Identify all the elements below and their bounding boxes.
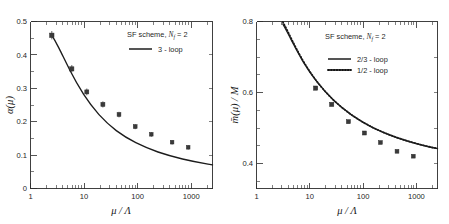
- y-tick-label: 0: [23, 184, 27, 193]
- alpha-coupling-panel: 0 0.1 0.2 0.3 0.4 0.5 1 10 100 1000 μ / …: [0, 0, 225, 224]
- legend: SF scheme, Nf = 2 3 - loop: [127, 30, 188, 54]
- x-tick-label: 1: [254, 192, 258, 201]
- y-tick-label: 0.3: [16, 84, 27, 93]
- data-point: [186, 145, 190, 150]
- data-point: [101, 101, 105, 107]
- legend-scheme-label: SF scheme, Nf = 2: [325, 32, 386, 42]
- data-point: [330, 102, 334, 106]
- y-tick-labels: 0.4 0.6 0.8: [242, 17, 253, 168]
- running-mass-panel: 0.4 0.6 0.8 1 10 100 1000 μ / Λ m̄(μ) / …: [225, 0, 449, 224]
- data-point: [85, 89, 89, 96]
- data-point: [346, 120, 350, 124]
- x-tick-label: 1: [28, 192, 32, 201]
- plot-axes: [257, 22, 438, 189]
- data-point: [117, 112, 121, 118]
- legend-entry-label: 3 - loop: [158, 45, 183, 54]
- two-three-loop-curve: [283, 24, 438, 149]
- x-tick-label: 10: [306, 192, 314, 201]
- y-tick-label: 0.5: [16, 17, 27, 26]
- alpha-plot-svg: 0 0.1 0.2 0.3 0.4 0.5 1 10 100 1000 μ / …: [0, 0, 225, 224]
- y-tick-labels: 0 0.1 0.2 0.3 0.4 0.5: [16, 17, 27, 193]
- y-tick-label: 0.8: [242, 17, 253, 26]
- x-tick-label: 1000: [408, 192, 425, 201]
- x-tick-label: 100: [357, 192, 370, 201]
- data-point: [379, 141, 383, 145]
- data-point: [133, 124, 137, 129]
- two-panel-figure: 0 0.1 0.2 0.3 0.4 0.5 1 10 100 1000 μ / …: [0, 0, 449, 224]
- x-tick-label: 100: [131, 192, 144, 201]
- data-point: [314, 86, 318, 90]
- legend-scheme-label: SF scheme, Nf = 2: [127, 30, 188, 40]
- x-tick-label: 1000: [183, 192, 200, 201]
- y-tick-label: 0.6: [242, 88, 253, 97]
- y-axis-title: α(μ): [4, 96, 16, 114]
- x-tick-label: 10: [80, 192, 88, 201]
- data-point: [170, 140, 174, 145]
- y-axis-title: m̄(μ) / M: [229, 85, 241, 123]
- data-point: [362, 131, 366, 135]
- legend: SF scheme, Nf = 2 2/3 - loop 1/2 - loop: [325, 32, 388, 75]
- y-tick-label: 0.4: [16, 51, 27, 60]
- legend-entry-label: 2/3 - loop: [357, 55, 388, 64]
- x-axis-title: μ / Λ: [110, 205, 131, 216]
- x-axis-ticks: [257, 22, 433, 189]
- y-tick-label: 0.2: [16, 117, 27, 126]
- x-tick-labels: 1 10 100 1000: [254, 192, 424, 201]
- data-point: [395, 149, 399, 153]
- x-tick-labels: 1 10 100 1000: [28, 192, 199, 201]
- data-point: [411, 154, 415, 158]
- legend-entry-label: 1/2 - loop: [357, 66, 388, 75]
- y-axis-ticks: [257, 22, 438, 182]
- y-tick-label: 0.1: [16, 151, 27, 160]
- x-axis-title: μ / Λ: [336, 205, 357, 216]
- y-tick-label: 0.4: [242, 159, 253, 168]
- data-point: [150, 132, 154, 137]
- mass-plot-svg: 0.4 0.6 0.8 1 10 100 1000 μ / Λ m̄(μ) / …: [225, 0, 449, 224]
